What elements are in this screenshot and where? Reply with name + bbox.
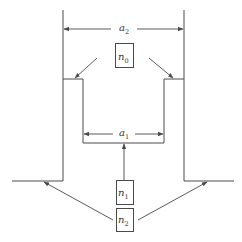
n2-arrow-right [138,182,207,220]
n2-arrow-left [44,182,113,220]
dimension-a1: a1 [84,127,163,141]
a2-label: a2 [119,22,129,36]
n0-arrow-right [149,58,173,78]
n0-callout: n0 [75,44,173,79]
dimension-a2: a2 [64,22,183,36]
a1-label: a1 [119,127,129,141]
n1-callout: n1 [117,144,134,205]
structure-outline [12,10,234,181]
diagram-canvas: a2 a1 n0 n1 n2 [0,0,242,242]
n0-arrow-left [75,58,97,78]
